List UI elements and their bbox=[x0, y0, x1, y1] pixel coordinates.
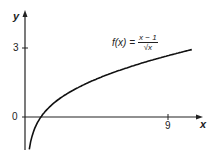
formula-fraction: x − 1 √x bbox=[138, 33, 158, 52]
function-annotation: f(x) = x − 1 √x bbox=[112, 33, 158, 52]
x-tick-label-9: 9 bbox=[165, 120, 171, 131]
y-axis-label: y bbox=[13, 10, 19, 22]
formula-lhs: f(x) = bbox=[112, 37, 135, 48]
formula-denominator: √x bbox=[144, 43, 152, 52]
x-axis-label: x bbox=[200, 118, 206, 130]
y-tick-label-3: 3 bbox=[13, 42, 19, 53]
y-tick-label-0: 0 bbox=[12, 111, 18, 122]
chart-plot bbox=[0, 0, 212, 156]
function-curve bbox=[29, 50, 192, 150]
formula-numerator: x − 1 bbox=[138, 33, 158, 43]
y-axis-arrow-icon bbox=[23, 10, 28, 17]
